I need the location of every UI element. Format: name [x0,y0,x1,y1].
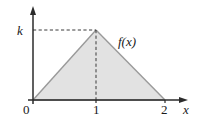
function-label-fx: f(x) [118,35,136,48]
shaded-area-under-curve [33,30,165,100]
y-axis-value-label-k: k [17,24,23,37]
triangular-density-figure: k f(x) x 0 1 2 [0,0,202,122]
y-axis-arrowhead-icon [30,6,36,15]
x-tick-label-1: 1 [93,103,100,116]
x-tick-label-0: 0 [23,103,30,116]
plot-canvas [0,0,202,122]
x-axis-name-label: x [183,103,189,116]
x-tick-label-2: 2 [161,103,168,116]
